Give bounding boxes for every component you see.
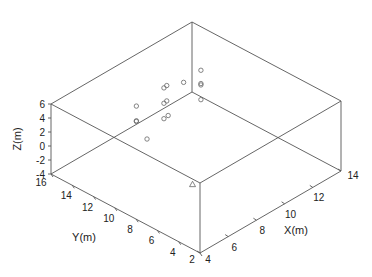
tick-label: 2 — [39, 127, 45, 138]
x-axis-line — [200, 171, 341, 253]
circle-marker — [166, 113, 170, 117]
tick-mark — [282, 202, 285, 204]
tick-mark — [253, 218, 256, 220]
circle-marker — [181, 80, 185, 84]
tick-label: 6 — [149, 235, 155, 246]
tick-mark — [200, 253, 202, 256]
x-axis-label: X(m) — [284, 224, 308, 236]
tick-label: -2 — [36, 155, 45, 166]
box-edge — [192, 22, 341, 101]
tick-mark — [225, 235, 228, 237]
box-edge — [51, 92, 192, 174]
tick-label: 10 — [285, 209, 297, 220]
tick-mark — [310, 185, 313, 187]
circle-marker — [145, 137, 149, 141]
z-axis-label: Z(m) — [11, 127, 23, 150]
tick-label: 6 — [39, 99, 45, 110]
tick-label: 4 — [205, 254, 211, 265]
box-edge — [200, 101, 341, 183]
scatter-3d-plot: -4-20246246810121416468101214 Z(m) Y(m) … — [0, 0, 372, 277]
circle-marker — [162, 101, 166, 105]
tick-label: 6 — [231, 242, 237, 253]
tick-label: 8 — [127, 224, 133, 235]
triangle-marker — [190, 181, 196, 186]
box-edge — [51, 22, 192, 104]
circle-marker — [162, 116, 166, 120]
box-edge — [51, 104, 200, 183]
tick-label: 14 — [61, 190, 73, 201]
tick-label: 14 — [347, 170, 359, 181]
tick-label: 8 — [260, 225, 266, 236]
box-edge — [192, 92, 341, 171]
tick-label: 4 — [170, 247, 176, 258]
circle-marker — [162, 86, 166, 90]
y-axis-label: Y(m) — [72, 231, 96, 243]
circle-marker — [165, 99, 169, 103]
circle-marker — [199, 68, 203, 72]
tick-label: 0 — [39, 141, 45, 152]
circle-marker — [165, 83, 169, 87]
tick-label: 10 — [103, 213, 115, 224]
axes-box — [51, 22, 341, 253]
tick-label: 4 — [39, 113, 45, 124]
tick-label: 2 — [189, 254, 195, 265]
data-points — [134, 68, 203, 187]
circle-marker — [134, 104, 138, 108]
tick-label: 12 — [313, 192, 325, 203]
tick-label: 16 — [35, 177, 47, 188]
tick-label: 12 — [82, 202, 94, 213]
circle-marker — [199, 97, 203, 101]
